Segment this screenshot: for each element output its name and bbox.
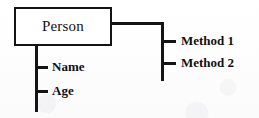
attribute-connector-2 bbox=[35, 90, 48, 93]
method-branch-connector bbox=[110, 22, 164, 25]
method-connector-1 bbox=[161, 40, 176, 43]
method-label-2[interactable]: Method 2 bbox=[181, 56, 234, 69]
attribute-connector-1 bbox=[35, 66, 48, 69]
method-trunk-line bbox=[161, 22, 164, 81]
method-label-1[interactable]: Method 1 bbox=[181, 34, 234, 47]
class-box-person[interactable]: Person bbox=[14, 7, 112, 46]
method-connector-2 bbox=[161, 62, 176, 65]
attribute-label-name[interactable]: Name bbox=[52, 60, 85, 73]
attribute-trunk-line bbox=[35, 45, 38, 112]
class-diagram-canvas: Person Name Age Method 1 Method 2 bbox=[0, 0, 259, 118]
class-box-title: Person bbox=[42, 19, 84, 34]
attribute-label-age[interactable]: Age bbox=[52, 84, 74, 97]
